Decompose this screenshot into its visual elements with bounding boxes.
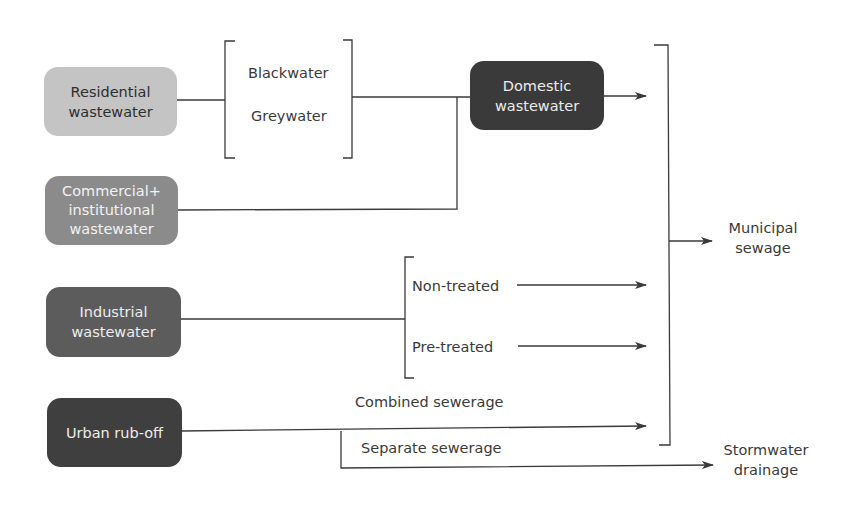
commercial-institutional-wastewater-node: Commercial+ institutional wastewater — [45, 176, 178, 245]
blackwater-label: Blackwater — [248, 63, 329, 83]
combined-sewerage-label: Combined sewerage — [355, 392, 504, 412]
municipal-sewage-output: Municipal sewage — [718, 218, 808, 258]
domestic-wastewater-node: Domestic wastewater — [470, 61, 604, 130]
pre-treated-label: Pre-treated — [412, 337, 493, 357]
separate-sewerage-label: Separate sewerage — [361, 438, 502, 458]
non-treated-label: Non-treated — [412, 276, 499, 296]
industrial-wastewater-node: Industrial wastewater — [46, 287, 181, 357]
residential-wastewater-node: Residential wastewater — [44, 67, 177, 136]
urban-rub-off-node: Urban rub-off — [47, 398, 182, 467]
stormwater-drainage-output: Stormwater drainage — [718, 440, 814, 480]
greywater-label: Greywater — [251, 106, 327, 126]
